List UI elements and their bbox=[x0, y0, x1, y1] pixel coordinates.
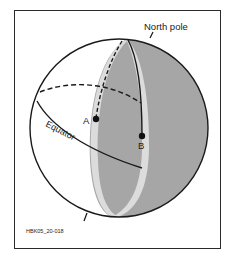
sphere-diagram: North pole A B Equator HBK05_20-018 bbox=[0, 0, 231, 259]
south-pole-tick bbox=[84, 213, 87, 221]
north-pole-label: North pole bbox=[144, 21, 188, 32]
north-pole-tick bbox=[150, 32, 153, 38]
figure-id-label: HBK05_20-018 bbox=[26, 228, 64, 234]
point-b-label: B bbox=[138, 140, 144, 151]
point-b-marker bbox=[139, 133, 145, 139]
point-a-marker bbox=[93, 116, 99, 122]
point-a-label: A bbox=[83, 115, 90, 126]
